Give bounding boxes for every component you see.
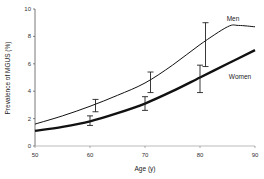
x-tick-label: 90 [252,152,259,158]
y-tick-label: 8 [28,33,32,39]
y-tick-label: 4 [28,88,32,94]
x-tick-label: 60 [87,152,94,158]
mgus-prevalence-chart: 02468105060708090 Age (y) Prevalence of … [0,0,264,179]
error-bar-men [148,72,154,93]
line-women [35,50,255,131]
series-group [35,23,255,131]
error-bar-men [93,99,99,111]
error-bar-men [203,23,209,67]
y-tick-label: 6 [28,61,32,67]
series-label-women: Women [229,73,252,80]
x-tick-label: 70 [142,152,149,158]
y-tick-label: 0 [28,143,32,149]
y-axis-title: Prevalence of MGUS (%) [4,42,12,115]
x-tick-label: 50 [32,152,39,158]
x-tick-label: 80 [197,152,204,158]
y-tick-label: 2 [28,116,32,122]
x-axis-title: Age (y) [135,165,156,173]
y-tick-label: 10 [24,6,31,12]
series-label-men: Men [227,15,240,22]
